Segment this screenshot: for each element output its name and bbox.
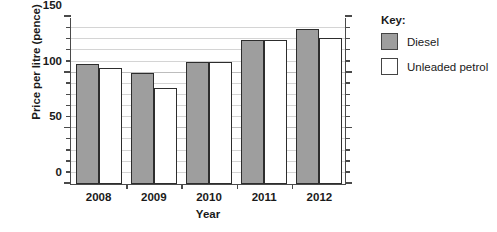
y-axis-tick (345, 60, 350, 61)
y-axis-tick-label: 0 (56, 166, 62, 178)
bar-diesel-2008 (76, 64, 99, 184)
bar-diesel-2010 (186, 62, 209, 184)
legend-title: Key: (381, 14, 493, 26)
bar-diesel-2011 (241, 40, 264, 184)
y-axis-tick-label: 50 (49, 110, 62, 122)
y-axis-tick (64, 127, 71, 129)
y-axis-tick (345, 105, 350, 106)
x-axis-tick-label: 2009 (141, 191, 167, 203)
y-axis-tick (345, 138, 350, 139)
y-axis-tick (345, 15, 352, 17)
y-axis-tick (345, 171, 350, 172)
y-axis-tick (345, 38, 350, 39)
bar-diesel-2012 (296, 29, 319, 184)
x-axis-tick (181, 184, 183, 189)
y-axis-tick (64, 15, 71, 17)
y-axis-tick (64, 182, 71, 184)
y-axis-tick-label: 150 (43, 0, 62, 11)
bar-series-group (71, 18, 345, 184)
legend-entries: DieselUnleaded petrol (381, 33, 493, 75)
plot-area: 050100150 20082009201020112012 (70, 18, 346, 185)
y-axis-tick (345, 116, 350, 117)
bar-unleaded-petrol-2008 (99, 68, 122, 184)
x-axis-tick (237, 184, 239, 189)
y-axis-tick (345, 182, 352, 184)
x-axis-tick (292, 184, 294, 189)
y-axis-tick-label: 100 (43, 55, 62, 67)
x-axis-tick-label: 2012 (307, 191, 333, 203)
y-axis-tick (345, 127, 352, 129)
y-axis-title: Price per litre (pence) (30, 0, 42, 142)
y-axis-tick (345, 71, 352, 73)
bar-chart-figure: Price per litre (pence) 050100150 200820… (0, 0, 497, 232)
legend-entry-unleaded: Unleaded petrol (381, 58, 493, 75)
legend-entry-diesel: Diesel (381, 33, 493, 50)
y-axis-tick (64, 71, 71, 73)
bar-unleaded-petrol-2009 (154, 88, 177, 184)
y-axis-tick (345, 160, 350, 161)
y-axis-tick (345, 27, 350, 28)
y-axis-tick (345, 82, 350, 83)
bar-unleaded-petrol-2011 (264, 40, 287, 184)
x-axis-tick (126, 184, 128, 189)
y-axis-tick (345, 49, 350, 50)
x-axis-tick-label: 2008 (86, 191, 112, 203)
legend-swatch-diesel (381, 33, 398, 50)
legend-label: Unleaded petrol (407, 61, 488, 73)
x-axis-tick-label: 2011 (252, 191, 277, 203)
x-axis-title: Year (70, 208, 346, 220)
bar-unleaded-petrol-2012 (319, 38, 342, 184)
bar-unleaded-petrol-2010 (209, 62, 232, 184)
bar-diesel-2009 (131, 73, 154, 184)
y-axis-tick (345, 149, 350, 150)
legend-label: Diesel (407, 36, 439, 48)
x-axis-tick-label: 2010 (196, 191, 222, 203)
legend-swatch-unleaded (381, 58, 398, 75)
y-axis-tick (345, 94, 350, 95)
legend: Key: DieselUnleaded petrol (381, 14, 493, 83)
